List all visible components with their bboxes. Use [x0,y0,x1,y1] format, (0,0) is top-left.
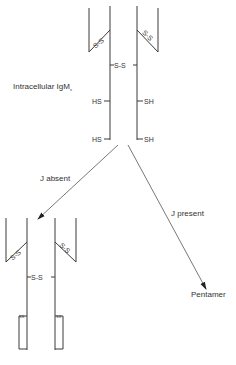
j-absent-label: J absent [40,174,71,183]
pentamer-label: Pentamer [191,290,226,299]
igm-monomer-j-absent: S-S S-S S-S SS SS [6,218,76,350]
ss-tail-left: SS [19,314,25,319]
ss-bond-right: S-S [141,29,154,42]
tailpiece-right [55,316,63,349]
hs-lower: HS [92,136,102,143]
light-chain-right-lower [55,218,76,262]
igm-assembly-diagram: S-S S-S S-S HS SH HS SH Intracellular Ig… [0,0,236,365]
intracellular-igm-label: Intracellular IgMs [13,82,72,92]
ss-tail-right: SS [56,314,62,319]
sh-lower: SH [144,136,154,143]
hs-upper: HS [92,98,102,105]
tailpiece-left [19,316,27,349]
ss-bond-left-lower: S-S [9,248,23,261]
ss-bond-left: S-S [92,36,106,49]
ss-bond-right-lower: S-S [58,241,71,254]
ss-bond-inter-heavy: S-S [114,62,126,69]
j-present-label: J present [171,209,205,218]
ss-bond-inter-heavy-lower: S-S [31,274,43,281]
intracellular-igm-monomer: S-S S-S S-S HS SH HS SH [89,6,158,143]
sh-upper: SH [144,98,154,105]
